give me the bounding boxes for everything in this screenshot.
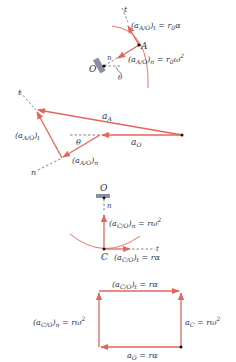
bottom-label: aO = rα [127, 351, 158, 361]
pivot-O [103, 197, 106, 200]
theta-label: θ [76, 138, 81, 147]
n-axis-label: n [107, 202, 112, 210]
label-A: A [140, 41, 148, 51]
aO-label: aO [131, 137, 141, 148]
tangential-accel-label: (aC/O)t = rα [114, 253, 161, 263]
normal-accel-label: (aA/O)n = r0ω2 [128, 52, 184, 65]
theta-label: θ [118, 74, 123, 82]
t-axis-label: t [18, 88, 22, 97]
figure-2-polygon-A: t n aA aO θ (aA/O)t (aA/O)n [15, 88, 184, 177]
n-axis-label: n [31, 168, 36, 177]
n-axis-line [38, 158, 62, 170]
figure-3-point-C: O n t C (aC/O)n = rω2 (aC/O)t = rα [70, 183, 162, 263]
tangential-accel-vector [37, 112, 62, 158]
aA-label: aA [102, 111, 112, 122]
label-O: O [100, 183, 108, 193]
path-arc [70, 234, 140, 249]
figure-1-point-A: t A O n θ (aA/O)t = r0α (aA/O)n = r0ω2 [89, 5, 184, 88]
origin-point [181, 134, 184, 137]
t-axis-label: t [124, 5, 128, 14]
origin-point [180, 346, 183, 349]
tangential-accel-label: (aA/O)t = r0α [131, 21, 181, 31]
t-axis-line [20, 92, 36, 110]
normal-accel-label: (aC/O)n = rω2 [109, 216, 162, 229]
n-axis-label: n [107, 54, 112, 62]
right-label: aC = rω2 [185, 315, 221, 328]
normal-accel-label: (aA/O)n [72, 156, 98, 166]
aA-vector [38, 110, 182, 135]
t-axis-label: t [156, 245, 159, 253]
pivot-O [102, 64, 105, 67]
label-O: O [89, 64, 97, 74]
top-label: (aC/O)t = rα [112, 280, 159, 290]
label-C: C [101, 252, 108, 262]
figure-4-polygon-C: (aC/O)t = rα (aC/O)n = rω2 aC = rω2 aO =… [33, 280, 221, 361]
kinematics-diagram: t A O n θ (aA/O)t = r0α (aA/O)n = r0ω2 t… [0, 0, 236, 362]
left-label: (aC/O)n = rω2 [33, 315, 86, 328]
tangential-accel-label: (aA/O)t [15, 131, 40, 141]
point-C [103, 248, 106, 251]
theta-arc [116, 67, 122, 74]
normal-accel-vector [63, 135, 100, 157]
